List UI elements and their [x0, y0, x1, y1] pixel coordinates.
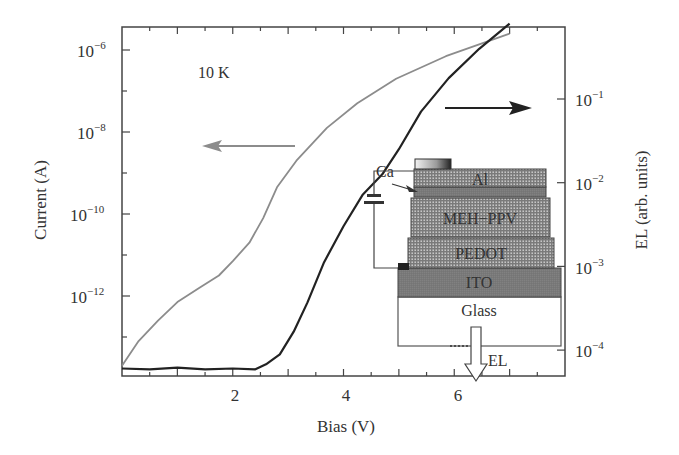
layer-label-al: Al [472, 171, 489, 188]
x-tick-label: 6 [454, 386, 463, 405]
y-left-tick-label: 10−6 [77, 39, 106, 61]
svg-text:10−10: 10−10 [70, 203, 105, 225]
svg-text:10−8: 10−8 [77, 121, 106, 143]
temperature-annotation: 10 K [198, 64, 230, 81]
y-right-tick-label: 10−2 [575, 172, 604, 194]
circuit-wire [374, 204, 400, 268]
right-axis-arrow [445, 101, 532, 115]
y-left-tick-label: 10−8 [77, 121, 106, 143]
x-axis-label: Bias (V) [317, 417, 375, 436]
y-right-tick-label: 10−1 [575, 88, 604, 110]
layer-ca [414, 187, 546, 197]
layer-label-ito: ITO [466, 274, 492, 291]
layer-label-pedot: PEDOT [455, 245, 507, 262]
svg-text:10−4: 10−4 [575, 339, 604, 361]
x-tick-label: 2 [231, 386, 240, 405]
y-left-axis-label: Current (A) [31, 160, 50, 240]
layer-label-meh-ppv: MEH−PPV [443, 210, 517, 227]
device-structure-inset: Al MEH−PPV PEDOT ITO Glass Ca EL [364, 159, 561, 381]
y-left-tick-label: 10−12 [70, 285, 104, 307]
ito-contact [398, 263, 409, 270]
layer-label-ca: Ca [376, 163, 394, 180]
y-right-tick-label: 10−4 [575, 339, 604, 361]
svg-text:10−6: 10−6 [77, 39, 106, 61]
el-label: EL [488, 352, 508, 369]
svg-text:10−2: 10−2 [575, 172, 604, 194]
y-right-axis-label: EL (arb. units) [632, 151, 651, 250]
x-tick-label: 4 [342, 386, 351, 405]
chart: 2 4 6 Bias (V) 10−6 10−8 10−10 10−12 Cur… [0, 0, 679, 455]
y-right-tick-label: 10−3 [575, 256, 604, 278]
battery-icon [367, 194, 381, 197]
svg-text:10−1: 10−1 [575, 88, 604, 110]
y-left-tick-label: 10−10 [70, 203, 105, 225]
layer-label-glass: Glass [461, 302, 497, 319]
svg-text:10−12: 10−12 [70, 285, 104, 307]
top-contact [415, 159, 451, 169]
svg-text:10−3: 10−3 [575, 256, 604, 278]
battery-icon [364, 201, 384, 204]
left-axis-arrow [202, 140, 295, 152]
